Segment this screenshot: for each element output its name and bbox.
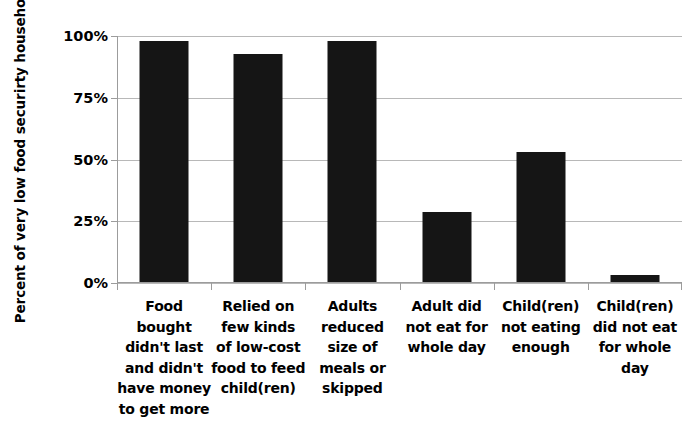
bar-chart: Percent of very low food securirty house…	[0, 0, 693, 447]
x-axis-tick	[400, 283, 401, 290]
bar-slot	[117, 36, 211, 282]
bar-slot	[494, 36, 588, 282]
x-axis-label-line: meals or	[297, 358, 407, 379]
bar	[328, 41, 377, 282]
bar-slot	[211, 36, 305, 282]
x-axis-category-label: Child(ren)did not eatfor wholeday	[580, 296, 690, 378]
y-axis-tick-label: 75%	[73, 90, 108, 106]
bar-slot	[400, 36, 494, 282]
x-axis-tick	[494, 283, 495, 290]
y-axis-tick-label: 0%	[83, 275, 108, 291]
x-axis-label-line: skipped	[297, 378, 407, 399]
x-axis-tick	[211, 283, 212, 290]
x-axis-label-line: did not eat	[580, 317, 690, 338]
x-axis-tick	[588, 283, 589, 290]
x-axis-tick	[305, 283, 306, 290]
x-axis-label-line: to get more	[109, 399, 219, 420]
bar	[610, 275, 659, 282]
x-axis-label-line: day	[580, 358, 690, 379]
plot-area: 0%25%50%75%100%	[117, 36, 682, 283]
bar	[422, 212, 471, 282]
x-axis-tick	[681, 283, 682, 290]
y-axis-title: Percent of very low food securirty house…	[0, 0, 40, 300]
x-axis-tick	[117, 283, 118, 290]
bar-slot	[588, 36, 682, 282]
y-axis-tick-label: 100%	[63, 28, 108, 44]
y-axis-tick-label: 50%	[73, 152, 108, 168]
bar	[516, 152, 565, 282]
bar	[234, 54, 283, 282]
x-axis-label-line: Child(ren)	[580, 296, 690, 317]
bar-slot	[305, 36, 399, 282]
y-axis-tick-label: 25%	[73, 213, 108, 229]
x-axis-label-line: for whole	[580, 337, 690, 358]
x-axis-category-labels: Foodboughtdidn't lastand didn'thave mone…	[117, 296, 682, 446]
bar	[140, 41, 189, 282]
